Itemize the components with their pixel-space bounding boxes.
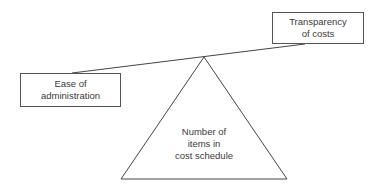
fulcrum-label: Number of items in cost schedule [164, 126, 244, 162]
transparency-of-costs-box: Transparency of costs [272, 12, 364, 44]
fulcrum-line-2: items in [164, 138, 244, 150]
left-box-line-1: Ease of [54, 78, 86, 90]
fulcrum-line-3: cost schedule [164, 150, 244, 162]
right-box-line-1: Transparency [289, 16, 347, 28]
left-box-line-2: administration [41, 90, 100, 102]
right-box-line-2: of costs [302, 28, 335, 40]
fulcrum-line-1: Number of [164, 126, 244, 138]
ease-of-administration-box: Ease of administration [20, 73, 121, 107]
lever-beam [72, 44, 305, 73]
